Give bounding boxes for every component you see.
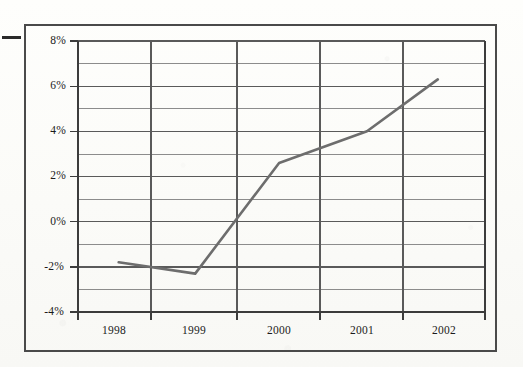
x-tick-label-1998: 1998 [79, 324, 149, 336]
y-tick-label-0: 0% [26, 215, 66, 227]
x-tick-label-1999: 1999 [159, 324, 229, 336]
y-tick-label-8: 8% [26, 34, 66, 46]
y-tick-label-neg2: -2% [24, 260, 64, 272]
line-chart [0, 0, 523, 367]
x-tick-label-2000: 2000 [244, 324, 314, 336]
y-tick-label-neg4: -4% [24, 305, 64, 317]
x-axis-ticks [78, 312, 485, 320]
y-tick-label-2: 2% [26, 169, 66, 181]
x-tick-label-2002: 2002 [409, 324, 479, 336]
x-tick-label-2001: 2001 [327, 324, 397, 336]
major-gridlines-horizontal [78, 41, 485, 312]
y-axis-ticks [70, 41, 78, 312]
y-tick-label-4: 4% [26, 124, 66, 136]
y-tick-label-6: 6% [26, 79, 66, 91]
figure-page: 8% 6% 4% 2% 0% -2% -4% 1998 1999 2000 20… [0, 0, 523, 367]
